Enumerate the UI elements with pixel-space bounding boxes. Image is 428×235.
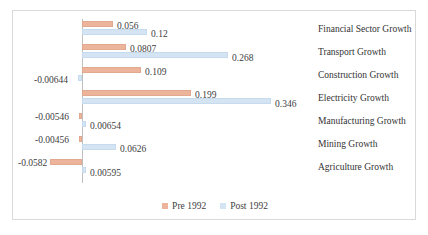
category-label-transport: Transport Growth	[318, 47, 386, 58]
bar-post-electricity[interactable]	[82, 98, 271, 104]
bar-value-pre-agriculture: -0.0582	[18, 158, 47, 168]
legend-item-post-1992[interactable]: Post 1992	[220, 201, 268, 211]
bar-pre-mining[interactable]	[79, 136, 82, 142]
bar-value-post-transport: 0.268	[232, 53, 253, 63]
category-label-agriculture: Agriculture Growth	[318, 162, 393, 173]
bar-value-pre-construction: 0.109	[145, 67, 166, 77]
plot-area: 0.056 0.12 Financial Sector Growth 0.080…	[13, 11, 417, 189]
bar-pre-construction[interactable]	[82, 67, 141, 73]
bar-post-manufacturing[interactable]	[82, 121, 86, 127]
bar-value-post-agriculture: 0.00595	[90, 168, 121, 178]
bar-value-post-manufacturing: 0.00654	[90, 121, 121, 131]
bar-value-pre-mining: -0.00456	[35, 135, 69, 145]
bar-value-post-construction: -0.00644	[34, 75, 68, 85]
category-label-mining: Mining Growth	[318, 139, 377, 150]
category-label-manufacturing: Manufacturing Growth	[318, 116, 406, 127]
bar-post-construction[interactable]	[78, 75, 82, 81]
bar-post-mining[interactable]	[82, 144, 116, 150]
category-label-electricity: Electricity Growth	[318, 93, 389, 104]
legend-swatch-icon-post-1992	[220, 203, 226, 209]
bar-pre-agriculture[interactable]	[50, 159, 82, 165]
chart-legend: Pre 1992 Post 1992	[13, 201, 417, 211]
category-label-financial: Financial Sector Growth	[318, 24, 411, 35]
legend-item-pre-1992[interactable]: Pre 1992	[162, 201, 206, 211]
bar-value-pre-manufacturing: -0.00546	[35, 112, 69, 122]
legend-label-pre-1992: Pre 1992	[172, 201, 206, 211]
legend-swatch-icon-pre-1992	[162, 203, 168, 209]
category-label-construction: Construction Growth	[318, 70, 398, 81]
bar-value-post-financial: 0.12	[151, 29, 168, 39]
bar-pre-electricity[interactable]	[82, 90, 191, 96]
bar-value-post-mining: 0.0626	[120, 144, 146, 154]
chart-container: 0.056 0.12 Financial Sector Growth 0.080…	[12, 10, 416, 220]
legend-label-post-1992: Post 1992	[230, 201, 268, 211]
bar-value-post-electricity: 0.346	[275, 99, 296, 109]
bar-pre-manufacturing[interactable]	[79, 113, 82, 119]
bar-post-financial[interactable]	[82, 29, 147, 35]
bar-post-transport[interactable]	[82, 52, 228, 58]
bar-pre-financial[interactable]	[82, 21, 113, 27]
bar-post-agriculture[interactable]	[82, 167, 86, 173]
bar-pre-transport[interactable]	[82, 44, 126, 50]
